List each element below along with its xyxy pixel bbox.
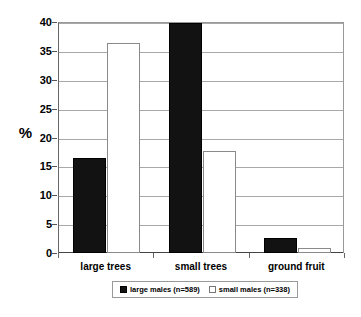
y-axis-tick-label: 30 xyxy=(26,74,52,85)
y-axis-tick-label: 35 xyxy=(26,45,52,56)
legend-swatch-icon xyxy=(209,286,216,293)
y-axis-tick-label: 0 xyxy=(26,248,52,259)
y-axis-tick-label: 40 xyxy=(26,17,52,28)
legend-label: large males (n=589) xyxy=(130,286,200,294)
bar-ground-fruit-large-males xyxy=(264,238,297,253)
y-axis-tick-mark xyxy=(52,22,57,23)
y-axis-tick-mark xyxy=(52,109,57,110)
y-axis-tick-mark xyxy=(52,224,57,225)
x-axis-tick-mark xyxy=(344,253,345,258)
bar-ground-fruit-small-males xyxy=(298,248,331,253)
legend-entry: large males (n=589) xyxy=(120,286,200,294)
y-axis-tick-mark xyxy=(52,166,57,167)
chart-legend: large males (n=589)small males (n=338) xyxy=(112,281,298,298)
x-axis-category-label: ground fruit xyxy=(249,261,344,273)
bar-chart: % 0510152025303540 large treessmall tree… xyxy=(0,0,361,317)
x-axis-tick-mark xyxy=(153,253,154,258)
legend-entry: small males (n=338) xyxy=(209,286,290,294)
bar-small-trees-small-males xyxy=(203,151,236,253)
y-axis-tick-mark xyxy=(52,80,57,81)
bar-large-trees-large-males xyxy=(73,158,106,253)
bar-large-trees-small-males xyxy=(107,43,140,253)
y-axis-tick-labels: 0510152025303540 xyxy=(26,0,52,317)
x-axis-tick-mark xyxy=(58,253,59,258)
plot-area xyxy=(58,22,344,253)
y-axis-tick-label: 15 xyxy=(26,161,52,172)
y-axis-tick-label: 10 xyxy=(26,190,52,201)
x-axis-category-label: small trees xyxy=(153,261,248,273)
bar-small-trees-large-males xyxy=(169,23,202,253)
legend-swatch-icon xyxy=(120,286,127,293)
y-axis-tick-mark xyxy=(52,195,57,196)
x-axis-tick-mark xyxy=(249,253,250,258)
y-axis-tick-mark xyxy=(52,51,57,52)
legend-label: small males (n=338) xyxy=(219,286,290,294)
y-axis-tick-mark xyxy=(52,138,57,139)
y-axis-tick-label: 20 xyxy=(26,132,52,143)
y-axis-tick-label: 5 xyxy=(26,219,52,230)
y-axis-tick-label: 25 xyxy=(26,103,52,114)
y-axis-tick-mark xyxy=(52,253,57,254)
x-axis-category-label: large trees xyxy=(58,261,153,273)
